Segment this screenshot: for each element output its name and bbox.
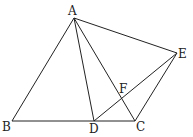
label-b: B	[2, 120, 11, 134]
label-f: F	[119, 82, 127, 96]
segment-ac	[74, 18, 135, 121]
segment-ab	[12, 18, 74, 121]
segment-ad	[74, 18, 94, 121]
label-a: A	[67, 4, 77, 18]
label-e: E	[178, 47, 187, 61]
label-d: D	[89, 122, 99, 136]
geometry-figure: A B D C E F	[0, 0, 193, 137]
segment-ae	[74, 18, 177, 53]
segment-de	[94, 53, 177, 121]
segment-ec	[135, 53, 177, 121]
label-c: C	[136, 120, 145, 134]
